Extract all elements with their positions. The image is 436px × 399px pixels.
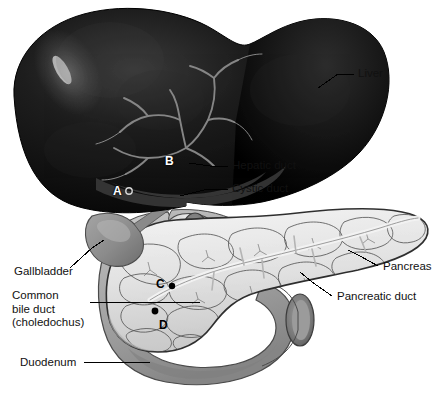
marker-a: A [113, 184, 122, 198]
label-common-bile-duct: Common bile duct (choledochus) [12, 289, 84, 330]
label-hepatic-duct: Hepatic duct [232, 159, 296, 173]
common-bile-duct-line-1: Common [12, 289, 84, 303]
label-cystic-duct: Cystic duct [232, 182, 288, 196]
label-pancreas: Pancreas [383, 260, 432, 274]
common-bile-duct-line-3: (choledochus) [12, 316, 84, 330]
label-liver: Liver [358, 67, 383, 81]
marker-d: D [159, 318, 168, 332]
marker-c: C [156, 277, 165, 291]
label-gallbladder: Gallbladder [14, 265, 73, 279]
label-duodenum: Duodenum [20, 356, 76, 370]
anatomy-diagram: Liver Hepatic duct Cystic duct Gallbladd… [0, 0, 436, 399]
diagram-artwork [0, 0, 436, 399]
label-pancreatic-duct: Pancreatic duct [337, 290, 416, 304]
marker-b: B [165, 154, 174, 168]
common-bile-duct-line-2: bile duct [12, 303, 84, 317]
